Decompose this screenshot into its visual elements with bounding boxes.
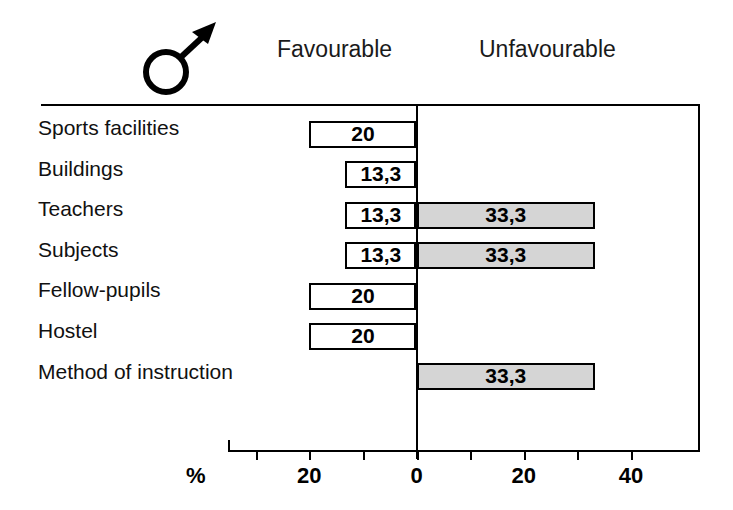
category-label: Sports facilities (38, 116, 179, 140)
axis-unit-label: % (186, 463, 206, 489)
column-header-favourable: Favourable (277, 36, 392, 63)
bar-favourable: 13,3 (345, 202, 416, 229)
x-axis-endcap-right (698, 440, 700, 451)
bar-unfavourable: 33,3 (417, 202, 595, 229)
axis-minor-tick (363, 450, 365, 460)
axis-tick-label: 40 (619, 463, 643, 489)
bar-value-label: 33,3 (485, 244, 526, 265)
column-header-unfavourable: Unfavourable (479, 36, 616, 63)
bar-value-label: 13,3 (360, 244, 401, 265)
axis-tick-label: 20 (511, 463, 535, 489)
bar-value-label: 20 (351, 285, 374, 306)
bar-value-label: 20 (351, 123, 374, 144)
axis-minor-tick (577, 450, 579, 460)
category-label: Fellow-pupils (38, 278, 161, 302)
bar-value-label: 13,3 (360, 204, 401, 225)
bar-value-label: 33,3 (485, 365, 526, 386)
bar-favourable: 13,3 (345, 161, 416, 188)
bar-favourable: 13,3 (345, 242, 416, 269)
bar-favourable: 20 (309, 121, 416, 148)
category-label: Teachers (38, 197, 123, 221)
category-label: Buildings (38, 157, 123, 181)
axis-minor-tick (256, 450, 258, 460)
category-label: Subjects (38, 238, 119, 262)
axis-major-tick (309, 450, 311, 460)
category-label: Method of instruction (38, 360, 233, 384)
category-label: Hostel (38, 319, 98, 343)
bar-unfavourable: 33,3 (417, 242, 595, 269)
x-axis-line (228, 450, 700, 452)
zero-axis-line (416, 104, 418, 459)
bar-favourable: 20 (309, 323, 416, 350)
axis-tick-label: 0 (410, 463, 422, 489)
axis-major-tick (631, 450, 633, 460)
male-symbol-icon (140, 18, 224, 98)
bar-value-label: 33,3 (485, 204, 526, 225)
axis-major-tick (524, 450, 526, 460)
bar-favourable: 20 (309, 283, 416, 310)
bar-unfavourable: 33,3 (417, 363, 595, 390)
chart-container: Favourable Unfavourable Sports facilitie… (0, 0, 733, 510)
bar-value-label: 20 (351, 325, 374, 346)
plot-frame-right (698, 104, 700, 451)
bar-value-label: 13,3 (360, 163, 401, 184)
axis-tick-label: 20 (297, 463, 321, 489)
x-axis-endcap-left (228, 440, 230, 451)
plot-frame-top (41, 104, 700, 106)
axis-minor-tick (470, 450, 472, 460)
axis-major-tick (417, 450, 419, 460)
